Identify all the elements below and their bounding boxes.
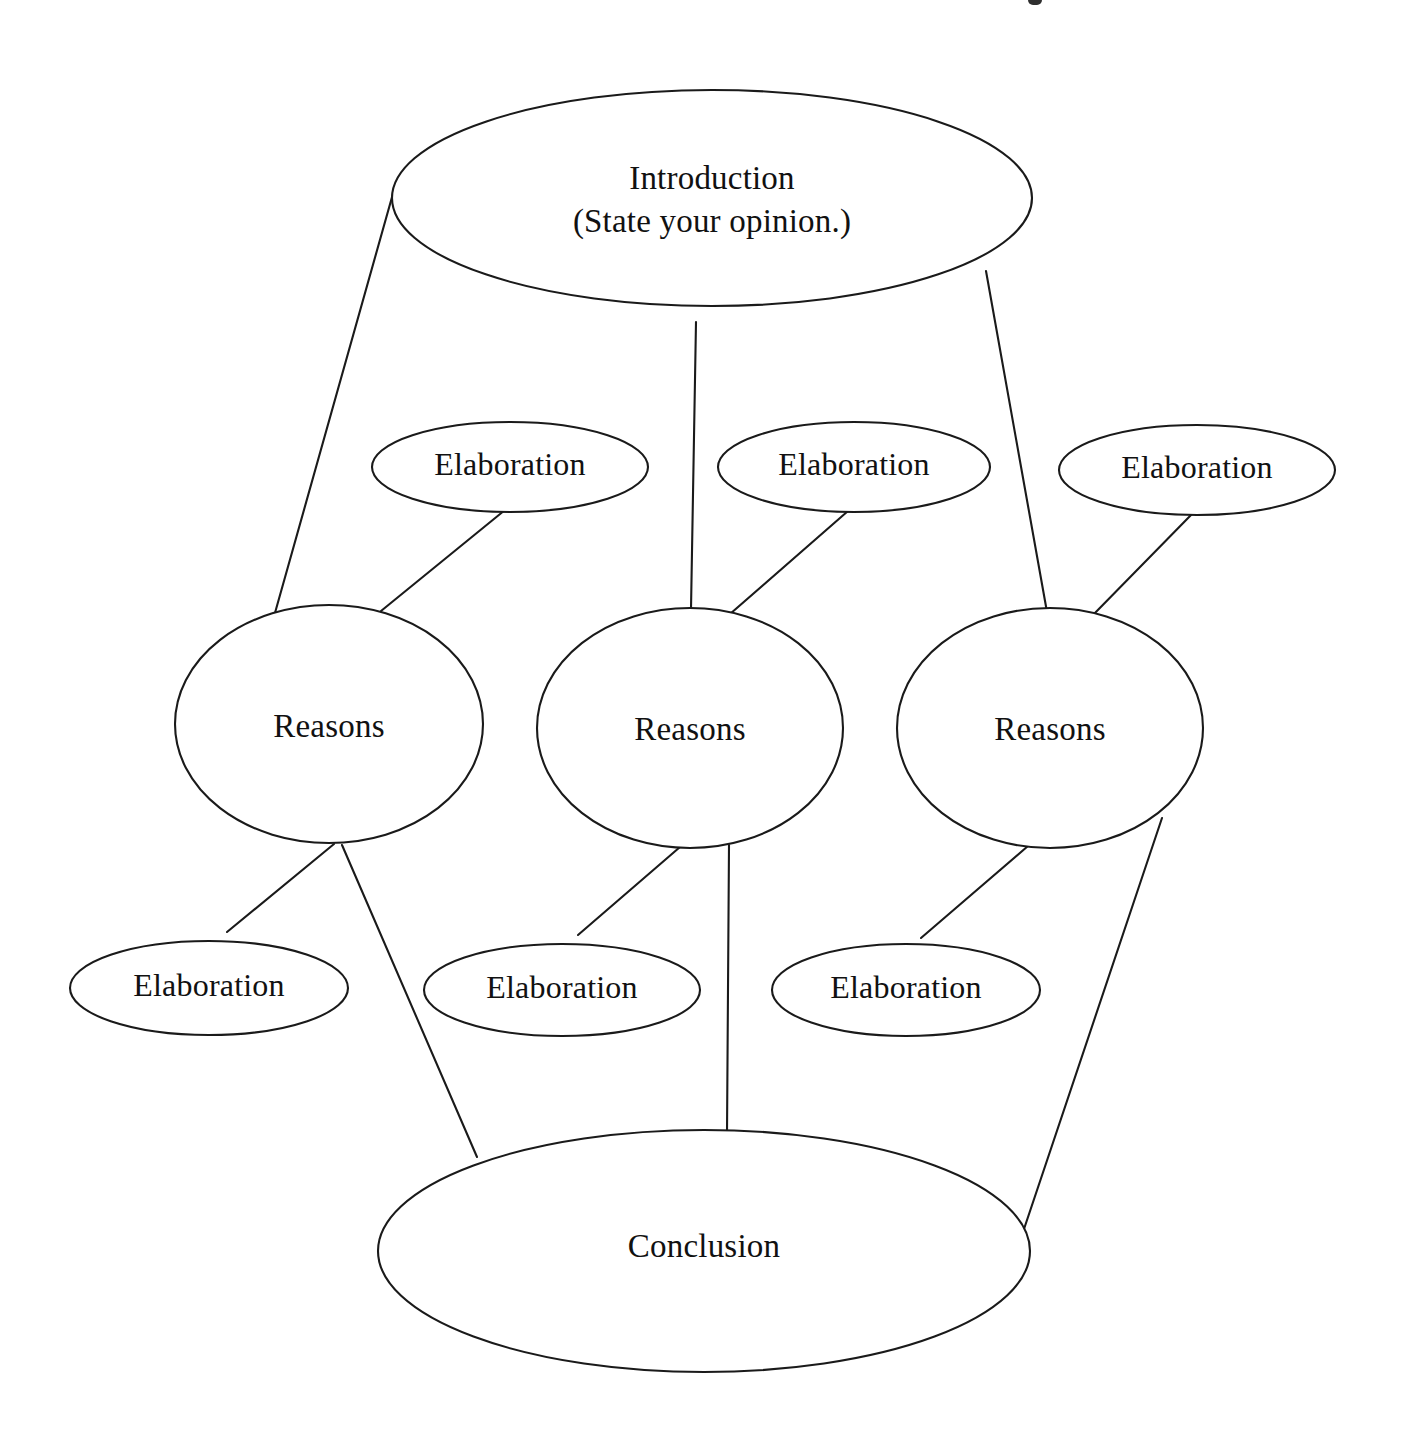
elaboration-bottom-1-label: Elaboration	[133, 967, 284, 1003]
introduction-ellipse[interactable]	[392, 90, 1032, 306]
edge-reasons-3-to-conclusion	[1023, 818, 1162, 1232]
edge-elaboration-top-1-to-reasons-1	[381, 510, 505, 611]
introduction-label-line2: (State your opinion.)	[573, 203, 851, 240]
edge-reasons-3-to-elaboration-bottom-3	[921, 846, 1028, 938]
edge-reasons-2-to-elaboration-bottom-2	[578, 847, 680, 935]
node-reasons-2[interactable]: Reasons	[537, 608, 843, 848]
opinion-essay-web-diagram: Introduction (State your opinion.) Elabo…	[0, 0, 1405, 1443]
edge-introduction-to-reasons-3	[986, 271, 1047, 612]
node-introduction[interactable]: Introduction (State your opinion.)	[392, 90, 1032, 306]
elaboration-top-2-label: Elaboration	[778, 446, 929, 482]
edge-reasons-1-to-elaboration-bottom-1	[227, 844, 334, 932]
node-conclusion[interactable]: Conclusion	[378, 1130, 1030, 1372]
node-elaboration-top-2[interactable]: Elaboration	[718, 422, 990, 512]
edge-introduction-to-reasons-2	[691, 322, 696, 609]
reasons-1-label: Reasons	[273, 708, 384, 744]
reasons-2-label: Reasons	[634, 711, 745, 747]
elaboration-top-3-label: Elaboration	[1121, 449, 1272, 485]
edge-reasons-2-to-conclusion	[727, 845, 729, 1133]
node-elaboration-top-1[interactable]: Elaboration	[372, 422, 648, 512]
node-reasons-3[interactable]: Reasons	[897, 608, 1203, 848]
elaboration-bottom-2-label: Elaboration	[486, 969, 637, 1005]
elaboration-bottom-3-label: Elaboration	[830, 969, 981, 1005]
elaboration-top-1-label: Elaboration	[434, 446, 585, 482]
node-elaboration-bottom-1[interactable]: Elaboration	[70, 941, 348, 1035]
node-elaboration-bottom-2[interactable]: Elaboration	[424, 944, 700, 1036]
edge-elaboration-top-2-to-reasons-2	[730, 511, 848, 614]
node-elaboration-bottom-3[interactable]: Elaboration	[772, 944, 1040, 1036]
introduction-label-line1: Introduction	[629, 160, 795, 196]
node-reasons-1[interactable]: Reasons	[175, 605, 483, 843]
node-elaboration-top-3[interactable]: Elaboration	[1059, 425, 1335, 515]
diagram-canvas: Introduction (State your opinion.) Elabo…	[0, 0, 1405, 1443]
reasons-3-label: Reasons	[994, 711, 1105, 747]
conclusion-label: Conclusion	[628, 1228, 780, 1264]
edge-elaboration-top-3-to-reasons-3	[1091, 514, 1192, 617]
edge-introduction-to-reasons-1	[273, 190, 394, 620]
